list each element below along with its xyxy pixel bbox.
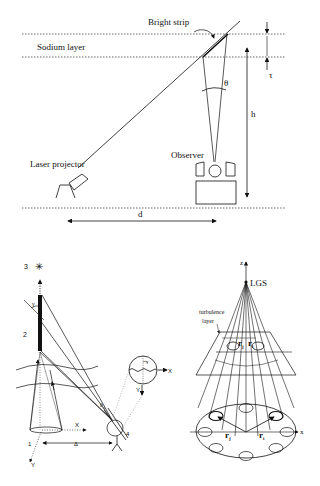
x-label: X <box>75 422 79 428</box>
bottom-left-geometry-diagram: 3 ✳ 2 γ X Y 1 <box>16 261 172 468</box>
inset-guide-2 <box>120 392 144 432</box>
r-j-layer-label: rj <box>238 338 244 349</box>
observer-ray-right <box>215 34 227 162</box>
ray-4 <box>40 352 112 420</box>
r-i-layer-label: ri <box>248 338 254 349</box>
lgs-rays <box>198 282 294 436</box>
bright-strip-label: Bright strip <box>148 17 190 27</box>
laser-projector-icon <box>56 174 88 198</box>
cone-inner-left <box>30 352 40 430</box>
r-i-label: ri <box>259 430 265 441</box>
gamma-label: γ <box>31 301 35 307</box>
inset-x-label: X <box>168 368 172 374</box>
top-sodium-layer-diagram: Bright strip Sodium layer θ τ h Laser pr… <box>22 17 285 221</box>
y-axis <box>30 432 41 462</box>
observer-circle <box>107 420 123 436</box>
delta-label: Δ <box>74 441 78 447</box>
tau-label: τ <box>269 70 273 80</box>
turbulence-wave-1 <box>16 364 98 370</box>
y-label: Y <box>31 462 35 468</box>
observer-figure <box>112 436 122 451</box>
label-4: 4 <box>126 431 130 437</box>
laser-projector-label: Laser projector <box>30 159 85 169</box>
lgs-label: LGS <box>250 278 267 288</box>
observer-label: Observer <box>171 150 204 160</box>
figure-canvas: Bright strip Sodium layer θ τ h Laser pr… <box>0 0 320 486</box>
star-icon: ✳ <box>35 261 43 272</box>
x-pupil-label: x <box>300 428 304 436</box>
turbulence-wave-2 <box>16 383 98 388</box>
d-label: d <box>138 209 143 219</box>
r-j-label: rj <box>225 430 231 441</box>
cone-right-edge <box>50 370 62 430</box>
observatory-icon <box>196 162 236 204</box>
observer-ray-left <box>203 57 214 162</box>
inset-guide-1 <box>112 368 130 420</box>
z-label: z <box>240 259 243 267</box>
cone-inner-right <box>40 352 62 430</box>
label-1: 1 <box>28 441 32 447</box>
subaperture-footprint-i <box>252 342 264 350</box>
sodium-layer-label: Sodium layer <box>37 42 85 52</box>
bottom-right-lgs-diagram: z LGS turbulence layer rj ri <box>190 259 304 461</box>
inset-zoom-circle: γ <box>129 356 157 384</box>
turbulence-label: turbulence <box>199 309 225 315</box>
cone-right-arrow <box>52 382 54 390</box>
bright-strip <box>203 34 228 57</box>
inset-y-label: Y <box>136 387 140 393</box>
label-3: 3 <box>24 263 28 270</box>
telescope-tube-2 <box>108 408 128 438</box>
label-2: 2 <box>23 331 27 338</box>
laser-beam <box>78 21 240 168</box>
h-label: h <box>251 109 256 119</box>
theta-label: θ <box>224 78 228 88</box>
layer-pointer <box>217 324 219 333</box>
theta-arc <box>202 88 226 91</box>
layer-label: layer <box>202 318 214 324</box>
laser-column <box>38 295 42 351</box>
